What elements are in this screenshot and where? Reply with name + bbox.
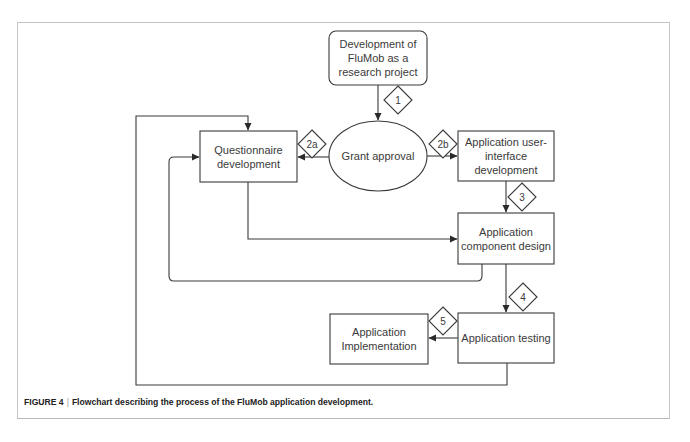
ui-dev-node-label: Application user- interface development [458,131,554,181]
step-badge-4: 4 [509,283,537,311]
step-badge-2a: 2a [298,130,326,158]
step-badge-5: 5 [429,307,457,335]
testing-node-label: Application testing [458,313,554,363]
caption-text: Flowchart describing the process of the … [72,397,373,407]
step-badge-3: 3 [508,183,536,211]
grant-node-label: Grant approval [329,121,427,191]
figure-caption: FIGURE 4|Flowchart describing the proces… [24,397,373,407]
step-badge-2b: 2b [429,130,457,158]
step-badge-1: 1 [384,86,412,114]
caption-separator: | [67,397,69,407]
figure-label: FIGURE 4 [24,397,64,407]
component-node-label: Application component design [458,213,554,264]
implementation-node-label: Application Implementation [330,314,428,364]
questionnaire-node-label: Questionnaire development [200,131,297,182]
start-node-label: Development of FluMob as a research proj… [329,31,427,85]
